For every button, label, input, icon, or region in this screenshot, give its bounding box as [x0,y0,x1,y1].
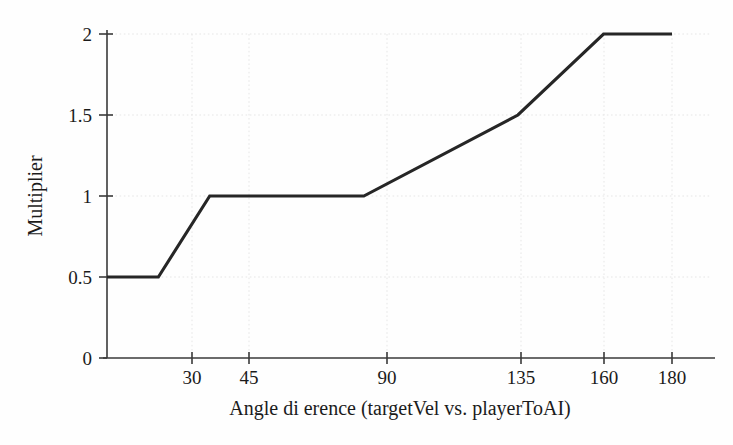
x-axis-title: Angle di erence (targetVel vs. playerToA… [229,397,570,420]
x-tick-label-90: 90 [378,367,397,388]
axis-lines [103,30,715,358]
x-tick-label-30: 30 [183,367,202,388]
gridlines-horizontal [107,34,710,277]
y-tick-label-2: 2 [83,24,93,45]
y-tick-label-0: 0 [83,348,93,369]
x-tick-label-45: 45 [240,367,259,388]
y-tick-marks [99,34,113,358]
y-tick-label-1.5: 1.5 [68,105,92,126]
x-tick-label-160: 160 [590,367,619,388]
y-tick-labels: 0 0.5 1 1.5 2 [68,24,92,369]
x-tick-label-135: 135 [507,367,536,388]
y-tick-label-0.5: 0.5 [68,267,92,288]
line-chart-canvas: 0 0.5 1 1.5 2 30 45 90 135 160 180 Angle… [0,0,733,445]
y-axis-title: Multiplier [24,155,47,236]
y-tick-label-1: 1 [83,186,93,207]
x-tick-labels: 30 45 90 135 160 180 [183,367,687,388]
x-tick-label-180: 180 [658,367,687,388]
chart-figure: 0 0.5 1 1.5 2 30 45 90 135 160 180 Angle… [0,0,733,445]
